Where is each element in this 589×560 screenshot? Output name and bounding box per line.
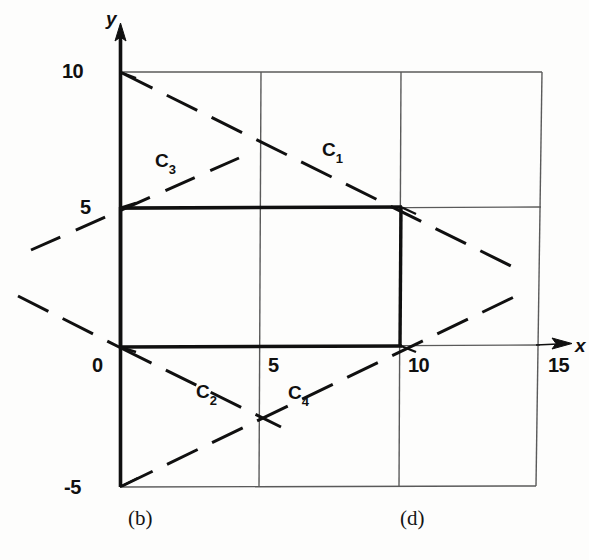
gridline-x5 (259, 72, 261, 487)
constraint-line-c3 (31, 158, 239, 250)
x-tick-label-5: 5 (268, 355, 279, 375)
curve-label-c2-base: C (196, 381, 210, 402)
x-axis-label: x (575, 336, 586, 355)
figure-svg (0, 0, 589, 560)
y-tick-label-minus5: -5 (64, 477, 81, 497)
y-axis-label: y (106, 9, 117, 28)
corner-barbs (120, 72, 416, 487)
feasible-region-rectangle (120, 207, 402, 347)
axes (115, 23, 572, 487)
curve-label-c3-subscript: 3 (169, 162, 176, 177)
figure-panel-bd: 10 5 -5 0 5 10 15 y x C1 C2 C3 C4 (b) (d… (0, 0, 589, 560)
y-tick-label-10: 10 (62, 61, 83, 81)
x-tick-label-15: 15 (548, 355, 569, 375)
region-edge-bottom (120, 346, 402, 347)
curve-label-c1: C1 (322, 140, 343, 163)
panel-caption-b: (b) (128, 508, 153, 529)
panel-caption-d: (d) (400, 508, 425, 529)
curve-label-c4-subscript: 4 (302, 394, 309, 409)
curve-label-c4: C4 (288, 383, 309, 406)
constraint-lines (18, 73, 516, 486)
y-tick-label-5: 5 (80, 197, 91, 217)
grid-lines (120, 72, 542, 487)
x-tick-label-10: 10 (408, 355, 429, 375)
curve-label-c3: C3 (155, 151, 176, 174)
curve-label-c4-base: C (288, 382, 302, 403)
constraint-line-c2-extension (18, 296, 121, 348)
constraint-line-c4 (122, 296, 516, 486)
region-edge-top (120, 207, 402, 208)
gridline-y-minus5 (120, 486, 536, 487)
curve-label-c3-base: C (155, 150, 169, 171)
curve-label-c1-subscript: 1 (336, 151, 343, 166)
x-tick-label-0: 0 (92, 355, 103, 375)
gridline-x15 (536, 72, 542, 486)
curve-label-c2-subscript: 2 (210, 393, 217, 408)
curve-label-c2: C2 (196, 382, 217, 405)
curve-label-c1-base: C (322, 139, 336, 160)
region-edge-right (400, 207, 401, 347)
constraint-line-c1 (122, 73, 511, 266)
